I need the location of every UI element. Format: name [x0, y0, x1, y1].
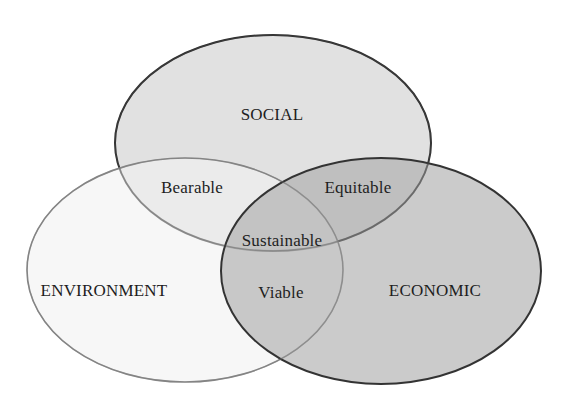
venn-diagram — [0, 0, 564, 399]
economic-label: ECONOMIC — [389, 281, 481, 301]
social-label: SOCIAL — [241, 105, 304, 125]
sustainable-label: Sustainable — [242, 231, 323, 251]
viable-label: Viable — [258, 283, 304, 303]
bearable-label: Bearable — [161, 178, 223, 198]
environment-label: ENVIRONMENT — [41, 281, 168, 301]
equitable-label: Equitable — [325, 178, 392, 198]
